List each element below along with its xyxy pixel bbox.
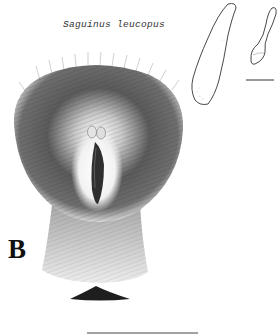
panel-label: B [8, 236, 26, 263]
baculum-small-outline [251, 8, 276, 65]
figure-panel: Saguinus leucopus B [0, 0, 280, 335]
anal-opening-wedge [70, 286, 130, 301]
genital-region-illustration [14, 52, 183, 222]
species-title: Saguinus leucopus [63, 19, 165, 30]
baculum-lateral-outline [192, 4, 236, 105]
illustration-canvas [0, 0, 280, 335]
